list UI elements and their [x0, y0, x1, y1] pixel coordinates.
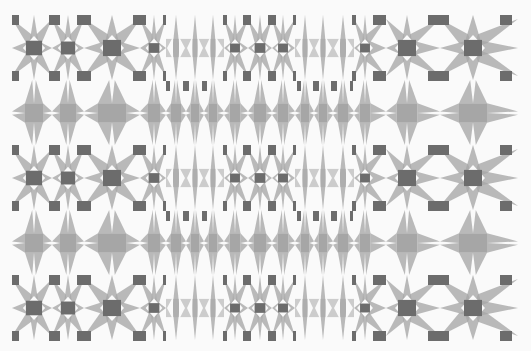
- center-square: [398, 170, 416, 186]
- star-center: [319, 103, 328, 123]
- star-center: [278, 233, 289, 253]
- dark-rectangle: [223, 71, 227, 81]
- dark-rectangle: [163, 145, 166, 155]
- dark-rectangle: [500, 145, 512, 155]
- dark-rectangle-small: [166, 81, 170, 91]
- dark-rectangle: [352, 15, 356, 25]
- dark-rectangle: [373, 201, 386, 211]
- center-square: [464, 300, 482, 316]
- dark-rectangle-small: [166, 211, 170, 221]
- center-square: [278, 174, 288, 183]
- center-square: [464, 170, 482, 186]
- center-square: [103, 40, 121, 56]
- star-center: [171, 233, 181, 253]
- dark-rectangle: [243, 145, 251, 155]
- dark-rectangle: [500, 331, 512, 341]
- dark-rectangle-small: [297, 211, 301, 221]
- dark-rectangle: [352, 275, 356, 285]
- dark-rectangle: [428, 275, 449, 285]
- star-center: [148, 103, 160, 123]
- dark-rectangle: [49, 145, 60, 155]
- dark-rectangle: [12, 275, 19, 285]
- dark-rectangle-small: [297, 81, 301, 91]
- dark-rectangle: [268, 15, 276, 25]
- dark-rectangle: [49, 275, 60, 285]
- dark-rectangle: [373, 71, 386, 81]
- dark-rectangle: [49, 71, 60, 81]
- star-center: [319, 233, 328, 253]
- center-square: [26, 41, 42, 56]
- dark-rectangle: [163, 71, 166, 81]
- dark-rectangle-small: [350, 81, 353, 91]
- center-square: [230, 304, 240, 313]
- center-square: [230, 174, 240, 183]
- dark-rectangle: [77, 275, 91, 285]
- center-square: [360, 174, 370, 183]
- geometric-pattern: [0, 0, 531, 351]
- dark-rectangle: [373, 145, 386, 155]
- star-center: [191, 233, 200, 253]
- star-center: [25, 103, 43, 123]
- center-square: [398, 300, 416, 316]
- dark-rectangle: [77, 201, 91, 211]
- center-square: [398, 40, 416, 56]
- center-square: [61, 172, 75, 185]
- dark-rectangle: [12, 15, 19, 25]
- dark-rectangle: [500, 71, 512, 81]
- dark-rectangle: [293, 145, 296, 155]
- dark-rectangle: [163, 275, 166, 285]
- dark-rectangle: [268, 145, 276, 155]
- dark-rectangle: [243, 275, 251, 285]
- center-square: [255, 43, 266, 53]
- star-center: [338, 103, 348, 123]
- dark-rectangle: [293, 275, 296, 285]
- dark-rectangle: [49, 201, 60, 211]
- dark-rectangle: [373, 275, 386, 285]
- star-center: [25, 233, 43, 253]
- dark-rectangle: [223, 201, 227, 211]
- dark-rectangle: [352, 201, 356, 211]
- dark-rectangle: [373, 331, 386, 341]
- dark-rectangle: [163, 15, 166, 25]
- dark-rectangle: [268, 275, 276, 285]
- star-center: [60, 103, 76, 123]
- star-center: [459, 103, 487, 123]
- center-square: [255, 173, 266, 183]
- dark-rectangle: [223, 331, 227, 341]
- dark-rectangle: [428, 331, 449, 341]
- star-center: [191, 103, 200, 123]
- dark-rectangle: [268, 201, 276, 211]
- dark-rectangle: [133, 201, 146, 211]
- dark-rectangle: [133, 71, 146, 81]
- dark-rectangle: [49, 331, 60, 341]
- dark-rectangle: [500, 201, 512, 211]
- star-center: [338, 233, 348, 253]
- star-center: [98, 103, 126, 123]
- dark-rectangle: [243, 331, 251, 341]
- star-center: [98, 233, 126, 253]
- dark-rectangle: [500, 275, 512, 285]
- star-center: [209, 103, 218, 123]
- dark-rectangle: [268, 331, 276, 341]
- dark-rectangle: [243, 71, 251, 81]
- center-square: [149, 303, 160, 313]
- dark-rectangle: [12, 201, 19, 211]
- star-center: [209, 233, 218, 253]
- dark-rectangle: [77, 145, 91, 155]
- star-center: [397, 233, 418, 253]
- dark-rectangle: [268, 71, 276, 81]
- dark-rectangle: [133, 275, 146, 285]
- dark-rectangle: [352, 145, 356, 155]
- center-square: [26, 171, 42, 186]
- star-center: [171, 103, 181, 123]
- star-center: [278, 103, 289, 123]
- center-square: [61, 302, 75, 315]
- dark-rectangle: [77, 71, 91, 81]
- center-square: [103, 300, 121, 316]
- dark-rectangle: [373, 15, 386, 25]
- center-square: [103, 170, 121, 186]
- dark-rectangle: [133, 15, 146, 25]
- dark-rectangle-small: [183, 211, 189, 221]
- star-center: [397, 103, 418, 123]
- dark-rectangle: [243, 201, 251, 211]
